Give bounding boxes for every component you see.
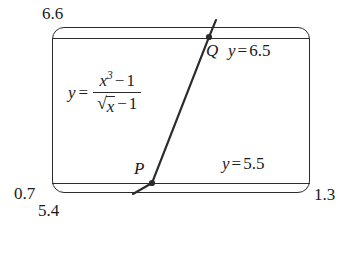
formula-lhs: y <box>68 83 76 103</box>
lower-line-y: y <box>222 154 230 173</box>
radicand: x <box>106 96 116 117</box>
formula-fraction: x3−1 √x−1 <box>93 68 141 118</box>
upper-line-value: 6.5 <box>249 41 270 60</box>
lower-line-equals: = <box>230 154 244 173</box>
formula-numerator: x3−1 <box>96 68 139 92</box>
numerator-operator: − <box>113 71 127 90</box>
point-p-label: P <box>134 160 144 177</box>
figure-canvas: 6.6 0.7 5.4 1.3 Q P y=6.5 y=5.5 y = x3−1… <box>0 0 352 263</box>
formula-denominator: √x−1 <box>93 93 141 118</box>
y-max-label: 6.6 <box>42 5 63 22</box>
denominator-operator: − <box>115 94 129 113</box>
upper-line-equals: = <box>236 41 250 60</box>
square-root-icon: √x <box>97 95 115 117</box>
numerator-exponent: 3 <box>107 69 113 82</box>
reference-line-lower <box>52 183 310 184</box>
lower-line-equation: y=5.5 <box>222 155 264 172</box>
point-q-label: Q <box>206 42 218 59</box>
numerator-term: 1 <box>126 71 135 90</box>
y-min-label: 5.4 <box>38 202 59 219</box>
x-max-label: 1.3 <box>314 186 335 203</box>
reference-line-upper <box>52 38 310 39</box>
formula-equals: = <box>79 83 89 103</box>
upper-line-equation: y=6.5 <box>228 42 270 59</box>
upper-line-y: y <box>228 41 236 60</box>
denominator-term: 1 <box>129 94 138 113</box>
x-min-label: 0.7 <box>14 185 35 202</box>
numerator-base: x <box>100 71 108 90</box>
lower-line-value: 5.5 <box>243 154 264 173</box>
function-formula: y = x3−1 √x−1 <box>68 68 141 118</box>
